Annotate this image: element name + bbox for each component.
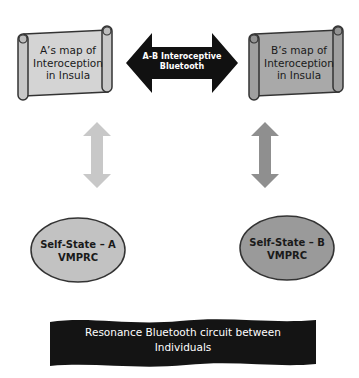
scroll-a-line-3: in Insula	[30, 69, 106, 82]
ellipse-a-line-1: Self-State – A	[29, 238, 127, 251]
scroll-a-line-1: A’s map of	[30, 44, 106, 57]
scroll-b-label: B’s map of Interoception in Insula	[260, 44, 338, 82]
bidirectional-arrow-line-1: A-B Interoceptive	[136, 52, 228, 62]
vertical-arrow-a-icon	[83, 122, 111, 188]
ellipse-a-line-2: VMPRC	[29, 251, 127, 264]
banner-label: Resonance Bluetooth circuit between Indi…	[55, 325, 311, 355]
ellipse-b-label: Self-State – B VMPRC	[238, 236, 336, 262]
scroll-b-line-1: B’s map of	[260, 44, 338, 57]
banner-line-1: Resonance Bluetooth circuit between	[55, 325, 311, 340]
banner-line-2: Individuals	[55, 340, 311, 355]
bidirectional-arrow-line-2: Bluetooth	[136, 62, 228, 72]
ellipse-a-label: Self-State – A VMPRC	[29, 238, 127, 264]
scroll-b-line-2: Interoception	[260, 57, 338, 70]
ellipse-b-line-2: VMPRC	[238, 249, 336, 262]
ellipse-b-line-1: Self-State – B	[238, 236, 336, 249]
scroll-a-label: A’s map of Interoception in Insula	[30, 44, 106, 82]
scroll-a-line-2: Interoception	[30, 57, 106, 70]
scroll-b-line-3: in Insula	[260, 69, 338, 82]
vertical-arrow-b-icon	[251, 122, 279, 188]
bidirectional-arrow-label: A-B Interoceptive Bluetooth	[136, 52, 228, 72]
